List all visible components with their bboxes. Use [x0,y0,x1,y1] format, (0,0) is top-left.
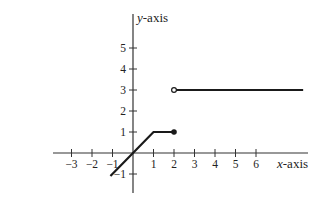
x-tick-label: 4 [212,158,218,170]
y-tick-label: 2 [120,105,126,117]
y-axis-label-rest: -axis [143,10,168,25]
open-endpoint-marker [172,88,177,93]
x-tick-label: 1 [151,158,157,170]
y-tick-label: 4 [120,63,126,75]
x-tick-label: −3 [65,158,77,170]
series-group [110,88,303,177]
y-tick-label: 3 [120,84,126,96]
y-tick-label: 1 [120,126,126,138]
y-axis-label: y-axis [135,10,168,25]
y-tick-label: 5 [120,42,126,54]
x-tick-label: 3 [192,158,198,170]
x-tick-label: −2 [86,158,98,170]
closed-endpoint-marker [172,130,176,134]
x-axis-label-rest: -axis [283,156,308,171]
x-tick-label: 5 [233,158,239,170]
function-graph: −3−2−1123456 −112345 y-axis x-axis [0,0,331,202]
x-tick-label: 2 [171,158,177,170]
x-axis-label: x-axis [276,156,308,171]
x-ticks: −3−2−1123456 [65,149,259,170]
x-tick-label: 6 [253,158,259,170]
